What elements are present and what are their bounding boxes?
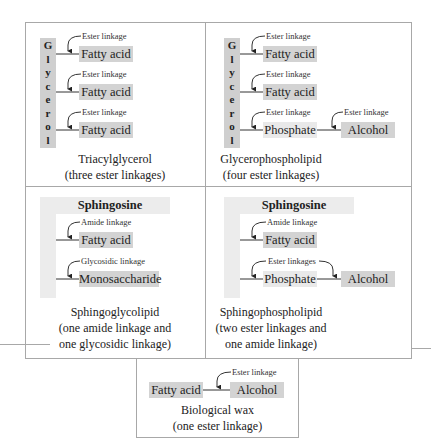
- fatty-acid-box: Fatty acid: [79, 232, 133, 248]
- caption-subtitle: (four ester linkages): [206, 168, 336, 183]
- glycerol-backbone: G l y c e r o l: [224, 38, 240, 148]
- caption-title: Glycerophospholipid: [206, 152, 336, 167]
- sphingosine-label: Sphingosine: [60, 197, 160, 213]
- linkage-label: Ester linkages: [268, 256, 316, 266]
- fatty-acid-box: Fatty acid: [263, 232, 317, 248]
- backbone-letter: r: [40, 107, 56, 121]
- fatty-acid-box: Fatty acid: [149, 382, 203, 398]
- caption-title: Triacylglycerol: [25, 152, 205, 167]
- backbone-letter: e: [224, 93, 240, 107]
- backbone-letter: l: [224, 53, 240, 67]
- caption-subtitle: (one ester linkage): [136, 419, 299, 434]
- caption-subtitle: (two ester linkages and: [206, 321, 336, 336]
- linkage-label: Amide linkage: [81, 217, 131, 227]
- caption-title: Sphingoglycolipid: [25, 305, 205, 320]
- fatty-acid-box: Fatty acid: [79, 122, 133, 138]
- linkage-label: Ester linkage: [266, 107, 311, 117]
- backbone-letter: l: [40, 53, 56, 67]
- caption-title: Biological wax: [136, 403, 299, 418]
- monosaccharide-box: Monosaccharide: [79, 271, 159, 287]
- backbone-letter: l: [224, 134, 240, 148]
- stray-rule-right: [411, 348, 431, 349]
- linkage-label: Ester linkage: [232, 367, 277, 377]
- caption-subtitle: one glycosidic linkage): [25, 337, 205, 352]
- backbone-letter: G: [224, 39, 240, 53]
- sphingosine-backbone-side: [224, 214, 240, 298]
- caption-subtitle: (one amide linkage and: [25, 321, 205, 336]
- linkage-label: Ester linkage: [82, 107, 127, 117]
- grid-horizontal-divider: [25, 186, 412, 187]
- backbone-letter: l: [40, 134, 56, 148]
- linkage-label: Ester linkage: [82, 31, 127, 41]
- phosphate-box: Phosphate: [263, 271, 317, 287]
- linkage-label: Ester linkage: [344, 107, 389, 117]
- backbone-letter: y: [40, 66, 56, 80]
- fatty-acid-box: Fatty acid: [79, 46, 133, 62]
- backbone-letter: y: [224, 66, 240, 80]
- backbone-letter: e: [40, 93, 56, 107]
- sphingosine-label: Sphingosine: [244, 197, 344, 213]
- fatty-acid-box: Fatty acid: [263, 84, 317, 100]
- fatty-acid-box: Fatty acid: [263, 46, 317, 62]
- backbone-letter: r: [224, 107, 240, 121]
- phosphate-box: Phosphate: [263, 122, 317, 138]
- alcohol-box: Alcohol: [230, 382, 284, 398]
- glycerol-backbone: G l y c e r o l: [40, 38, 56, 148]
- alcohol-box: Alcohol: [341, 122, 395, 138]
- backbone-letter: o: [224, 120, 240, 134]
- caption-subtitle: one amide linkage): [206, 337, 336, 352]
- backbone-letter: G: [40, 39, 56, 53]
- linkage-label: Ester linkage: [266, 31, 311, 41]
- caption-title: Sphingophospholipid: [206, 305, 336, 320]
- backbone-letter: c: [224, 80, 240, 94]
- backbone-letter: c: [40, 80, 56, 94]
- fatty-acid-box: Fatty acid: [79, 84, 133, 100]
- caption-subtitle: (three ester linkages): [25, 168, 205, 183]
- linkage-label: Glycosidic linkage: [81, 256, 145, 266]
- sphingosine-backbone-side: [40, 214, 56, 298]
- linkage-label: Amide linkage: [267, 217, 317, 227]
- linkage-label: Ester linkage: [82, 69, 127, 79]
- linkage-label: Ester linkage: [266, 69, 311, 79]
- alcohol-box: Alcohol: [341, 271, 395, 287]
- backbone-letter: o: [40, 120, 56, 134]
